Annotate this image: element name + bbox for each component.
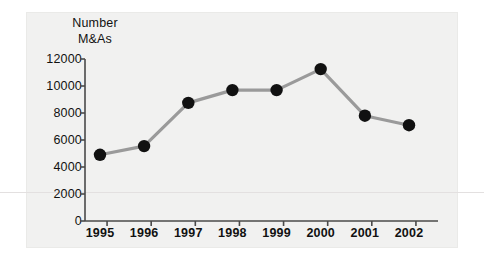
- data-point-marker: [315, 63, 327, 75]
- data-point-marker: [182, 97, 194, 109]
- data-point-marker: [226, 84, 238, 96]
- data-point-marker: [270, 84, 282, 96]
- axis-lines: [85, 59, 438, 221]
- chart-figure: Number M&As 020004000600080001000012000 …: [0, 0, 484, 265]
- data-point-markers: [94, 63, 415, 161]
- data-point-marker: [94, 149, 106, 161]
- plot-area: [0, 0, 484, 265]
- data-point-marker: [403, 119, 415, 131]
- data-point-marker: [359, 110, 371, 122]
- data-point-marker: [138, 140, 150, 152]
